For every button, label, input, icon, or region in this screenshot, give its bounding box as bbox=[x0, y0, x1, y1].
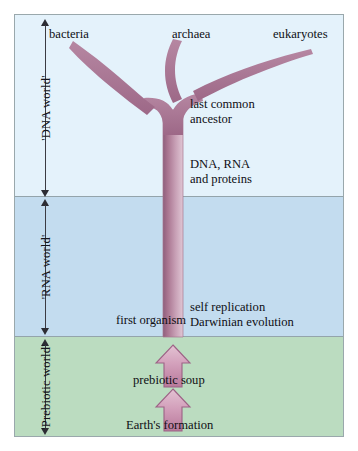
label-first-organism: first organism bbox=[116, 313, 186, 328]
branch-archaea bbox=[165, 39, 182, 103]
label-dna-rna-and-proteins: DNA, RNA and proteins bbox=[190, 157, 252, 187]
branch-bacteria bbox=[69, 41, 155, 115]
label-bacteria: bacteria bbox=[49, 27, 89, 42]
arrowhead-down-icon bbox=[41, 328, 49, 335]
label-earths-formation: Earth's formation bbox=[126, 418, 213, 433]
axis-label-prebiotic-world: 'Prebiotic world' bbox=[39, 341, 54, 432]
label-archaea: archaea bbox=[172, 27, 210, 42]
axis-bracket-rna-world: 'RNA world' bbox=[39, 199, 53, 335]
label-prebiotic-soup: prebiotic soup bbox=[133, 373, 205, 388]
axis-bracket-dna-world: 'DNA world' bbox=[39, 19, 53, 197]
label-eukaryotes: eukaryotes bbox=[273, 27, 328, 42]
axis-bracket-prebiotic-world: 'Prebiotic world' bbox=[39, 339, 53, 435]
axis-label-dna-world: 'DNA world' bbox=[39, 72, 54, 143]
tree-trunk bbox=[163, 110, 183, 337]
axis-label-rna-world: 'RNA world' bbox=[39, 232, 54, 303]
branch-eukaryotes bbox=[193, 49, 313, 101]
plot-frame: 'DNA world' 'RNA world' 'Prebiotic world… bbox=[14, 14, 344, 437]
arrowhead-down-icon bbox=[41, 190, 49, 197]
label-last-common-ancestor: last common ancestor bbox=[190, 97, 255, 127]
diagram-canvas: 'DNA world' 'RNA world' 'Prebiotic world… bbox=[0, 0, 358, 451]
label-self-replication: self replication Darwinian evolution bbox=[190, 300, 294, 330]
